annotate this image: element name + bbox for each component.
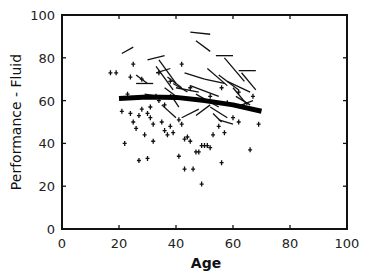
change-segment <box>148 56 165 60</box>
data-point-plus <box>222 130 226 135</box>
change-segment <box>224 58 244 82</box>
y-axis-title: Performance - Fluid <box>8 54 24 190</box>
data-point-plus <box>120 109 124 114</box>
change-segment <box>196 41 210 52</box>
data-point-plus <box>197 149 201 154</box>
data-point-plus <box>114 70 118 75</box>
change-segment <box>136 75 147 84</box>
data-point-plus <box>211 132 215 137</box>
data-point-plus <box>128 111 132 116</box>
y-tick-label: 0 <box>47 222 55 237</box>
axis-ticks: 020406080100020406080100 <box>30 8 359 251</box>
data-point-plus <box>151 139 155 144</box>
data-point-plus <box>146 156 150 161</box>
x-tick-label: 20 <box>111 236 128 251</box>
data-point-plus <box>183 167 187 172</box>
data-point-plus <box>180 122 184 127</box>
data-point-plus <box>220 160 224 165</box>
data-point-plus <box>151 122 155 127</box>
data-point-plus <box>220 85 224 90</box>
x-axis-title: Age <box>191 255 221 271</box>
data-point-plus <box>217 124 221 129</box>
change-segment <box>210 107 227 118</box>
data-point-plus <box>180 62 184 67</box>
change-segment <box>162 105 176 118</box>
data-point-plus <box>177 117 181 122</box>
change-segment <box>185 73 205 79</box>
data-point-plus <box>171 130 175 135</box>
data-point-plus <box>128 75 132 80</box>
change-segment <box>122 47 133 53</box>
x-tick-label: 60 <box>225 236 242 251</box>
x-tick-label: 80 <box>282 236 299 251</box>
data-point-plus <box>165 132 169 137</box>
data-point-plus <box>160 120 164 125</box>
data-point-plus <box>248 147 252 152</box>
data-point-plus <box>131 120 135 125</box>
data-point-plus <box>134 126 138 131</box>
data-point-plus <box>140 107 144 112</box>
y-tick-label: 60 <box>38 94 55 109</box>
data-point-plus <box>200 182 204 187</box>
data-point-plus <box>208 94 212 99</box>
plot-area <box>108 32 261 186</box>
data-point-plus <box>168 124 172 129</box>
data-point-plus <box>163 128 167 133</box>
change-segment <box>173 83 187 92</box>
data-point-plus <box>177 154 181 159</box>
x-tick-label: 100 <box>335 236 360 251</box>
x-tick-label: 40 <box>168 236 185 251</box>
change-segment <box>190 32 210 34</box>
data-point-plus <box>148 105 152 110</box>
data-point-plus <box>191 167 195 172</box>
x-tick-label: 0 <box>58 236 66 251</box>
data-point-plus <box>146 111 150 116</box>
data-point-plus <box>257 122 261 127</box>
y-tick-label: 100 <box>30 8 55 23</box>
y-tick-label: 20 <box>38 179 55 194</box>
change-segment <box>167 77 181 88</box>
data-point-plus <box>188 139 192 144</box>
change-segment <box>207 69 227 86</box>
y-tick-label: 80 <box>38 51 55 66</box>
data-point-plus <box>231 115 235 120</box>
data-point-plus <box>251 94 255 99</box>
data-point-plus <box>237 120 241 125</box>
data-point-plus <box>148 115 152 120</box>
data-point-plus <box>137 158 141 163</box>
data-point-plus <box>137 113 141 118</box>
scatter-chart: 020406080100020406080100 Age Performance… <box>0 0 370 274</box>
data-point-plus <box>143 132 147 137</box>
data-point-plus <box>131 62 135 67</box>
data-point-plus <box>108 70 112 75</box>
y-tick-label: 40 <box>38 136 55 151</box>
data-point-plus <box>123 141 127 146</box>
change-segment <box>182 109 199 118</box>
